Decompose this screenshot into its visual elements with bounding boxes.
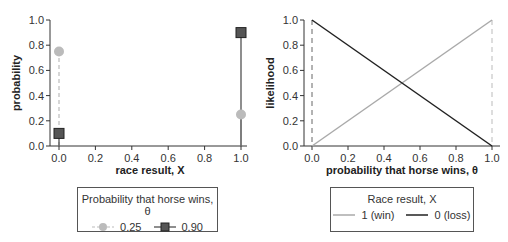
right-xtick-label: 1.0 xyxy=(484,152,499,164)
left-xtick-label: 0.4 xyxy=(124,152,139,164)
left-y-axis-label: probability xyxy=(10,54,22,111)
circle-marker-icon xyxy=(92,222,114,232)
right-ytick-label: 0.8 xyxy=(283,39,298,51)
left-xtick-label: 1.0 xyxy=(233,152,248,164)
legend-item-090: 0.90 xyxy=(154,221,203,233)
right-xtick-label: 0.2 xyxy=(340,152,355,164)
right-xtick-label: 0.0 xyxy=(304,152,319,164)
left-xtick-label: 0.0 xyxy=(51,152,66,164)
left-legend: Probability that horse wins, θ 0.25 0.90 xyxy=(77,187,218,232)
point-090-x0 xyxy=(54,128,64,138)
light-line-icon xyxy=(333,210,355,220)
legend-label-090: 0.90 xyxy=(182,221,203,233)
left-ytick-label: 1.0 xyxy=(29,14,44,26)
right-ytick-label: 0.0 xyxy=(283,140,298,152)
left-ytick-label: 0.6 xyxy=(29,64,44,76)
square-marker-icon xyxy=(154,222,176,232)
right-legend: Race result, X 1 (win) 0 (loss) xyxy=(330,187,474,232)
left-xtick-label: 0.2 xyxy=(88,152,103,164)
point-025-x1 xyxy=(236,110,246,120)
right-legend-title: Race result, X xyxy=(331,193,473,205)
legend-item-loss: 0 (loss) xyxy=(406,209,470,221)
right-y-axis-label: likelihood xyxy=(264,57,276,108)
legend-item-025: 0.25 xyxy=(92,221,141,233)
legend-label-win: 1 (win) xyxy=(361,209,394,221)
left-legend-title: Probability that horse wins, θ xyxy=(78,193,217,217)
left-ytick-label: 0.4 xyxy=(29,90,44,102)
right-ytick-label: 1.0 xyxy=(283,14,298,26)
right-xtick-label: 0.6 xyxy=(412,152,427,164)
left-plot: 0.00.20.40.60.81.0 0.00.20.40.60.81.0 ra… xyxy=(10,14,249,176)
legend-label-025: 0.25 xyxy=(120,221,141,233)
point-090-x1 xyxy=(236,28,246,38)
left-ytick-label: 0.2 xyxy=(29,115,44,127)
dark-line-icon xyxy=(406,210,428,220)
right-xtick-label: 0.8 xyxy=(448,152,463,164)
legend-label-loss: 0 (loss) xyxy=(434,209,470,221)
right-plot: 0.00.20.40.60.81.0 0.00.20.40.60.81.0 pr… xyxy=(264,14,500,176)
legend-item-win: 1 (win) xyxy=(333,209,394,221)
point-025-x0 xyxy=(54,47,64,57)
left-xtick-label: 0.6 xyxy=(161,152,176,164)
right-xtick-label: 0.4 xyxy=(376,152,391,164)
left-ytick-label: 0.8 xyxy=(29,39,44,51)
right-ytick-label: 0.6 xyxy=(283,64,298,76)
right-x-axis-label: probability that horse wins, θ xyxy=(326,164,478,176)
right-ytick-label: 0.4 xyxy=(283,90,298,102)
left-xtick-label: 0.8 xyxy=(197,152,212,164)
left-x-axis-label: race result, X xyxy=(115,164,185,176)
right-ytick-label: 0.2 xyxy=(283,115,298,127)
left-ytick-label: 0.0 xyxy=(29,140,44,152)
